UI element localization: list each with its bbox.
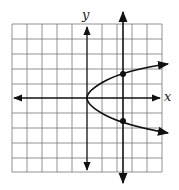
intersection-point-lower (120, 118, 126, 124)
y-axis-label: y (82, 7, 89, 22)
intersection-point-upper (120, 71, 126, 77)
x-axis-label: x (164, 89, 171, 104)
graph (0, 0, 179, 190)
